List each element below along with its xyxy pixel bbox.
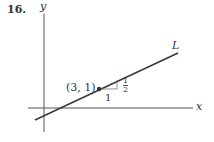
run-label: 1 bbox=[105, 92, 111, 103]
coordinate-diagram bbox=[0, 0, 214, 142]
rise-denominator: 2 bbox=[123, 85, 128, 94]
line-L bbox=[35, 53, 178, 120]
rise-numerator: 1 bbox=[123, 77, 128, 85]
y-axis-label: y bbox=[40, 0, 46, 13]
point-label: (3, 1) bbox=[66, 81, 96, 94]
slope-triangle bbox=[99, 80, 117, 89]
rise-label: 1 2 bbox=[123, 77, 128, 94]
line-label: L bbox=[172, 39, 179, 52]
point-3-1 bbox=[97, 87, 101, 91]
x-axis-label: x bbox=[196, 100, 202, 113]
